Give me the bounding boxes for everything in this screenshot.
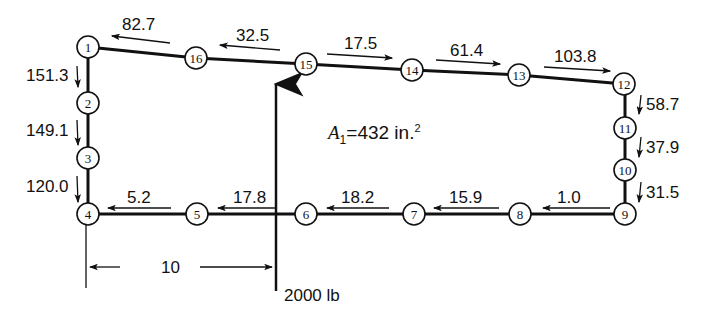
node-label: 2 bbox=[85, 96, 92, 111]
shear-value-15-14: 17.5 bbox=[344, 35, 377, 52]
node-label: 7 bbox=[411, 207, 418, 222]
dimension-line bbox=[86, 225, 272, 288]
area-superscript: 2 bbox=[414, 122, 420, 134]
shear-value-3-4: 120.0 bbox=[26, 178, 69, 195]
node-label: 1 bbox=[85, 40, 92, 55]
shear-value-12-11: 58.7 bbox=[646, 96, 679, 113]
shear-value-7-6: 18.2 bbox=[341, 189, 374, 206]
arrow-2-3 bbox=[77, 120, 78, 145]
node-label: 8 bbox=[517, 207, 524, 222]
shear-value-9-8: 1.0 bbox=[557, 189, 581, 206]
node-label: 14 bbox=[406, 63, 420, 78]
shear-value-16-15: 32.5 bbox=[236, 27, 269, 44]
node-label: 11 bbox=[619, 121, 632, 136]
shear-value-10-9: 31.5 bbox=[646, 184, 679, 201]
shear-value-14-13: 61.4 bbox=[450, 42, 483, 59]
arrow-13-12 bbox=[544, 67, 610, 71]
node-label: 6 bbox=[303, 207, 310, 222]
node-label: 3 bbox=[85, 151, 92, 166]
shear-value-6-5: 17.8 bbox=[233, 189, 266, 206]
load-label: 2000 lb bbox=[284, 287, 340, 304]
arrow-15-14 bbox=[327, 54, 392, 58]
area-symbol: A bbox=[328, 122, 340, 143]
shear-value-11-10: 37.9 bbox=[646, 139, 679, 156]
shear-value-13-12: 103.8 bbox=[554, 48, 597, 65]
arrow-10-9 bbox=[639, 182, 641, 202]
arrow-3-4 bbox=[77, 176, 78, 202]
node-label: 5 bbox=[194, 207, 201, 222]
node-label: 4 bbox=[85, 207, 92, 222]
node-label: 13 bbox=[513, 68, 526, 83]
arrow-1-2 bbox=[77, 66, 78, 87]
arrow-14-13 bbox=[436, 60, 500, 64]
arrow-12-11 bbox=[639, 95, 641, 114]
node-label: 16 bbox=[190, 51, 204, 66]
node-label: 10 bbox=[619, 163, 632, 178]
node-label: 15 bbox=[300, 57, 313, 72]
shear-value-1-2: 151.3 bbox=[26, 67, 69, 84]
dimension-label: 10 bbox=[161, 259, 180, 276]
arrow-1-16 bbox=[112, 36, 170, 43]
shear-value-2-3: 149.1 bbox=[26, 122, 69, 139]
shear-value-5-4: 5.2 bbox=[127, 189, 151, 206]
area-value: =432 in. bbox=[346, 122, 414, 143]
arrow-11-10 bbox=[639, 137, 641, 157]
arrow-16-15 bbox=[220, 45, 280, 50]
node-label: 9 bbox=[622, 207, 629, 222]
shear-value-8-7: 15.9 bbox=[449, 189, 482, 206]
shear-value-1-16: 82.7 bbox=[122, 16, 155, 33]
node-label: 12 bbox=[618, 77, 631, 92]
area-label: A1=432 in.2 bbox=[328, 123, 421, 146]
